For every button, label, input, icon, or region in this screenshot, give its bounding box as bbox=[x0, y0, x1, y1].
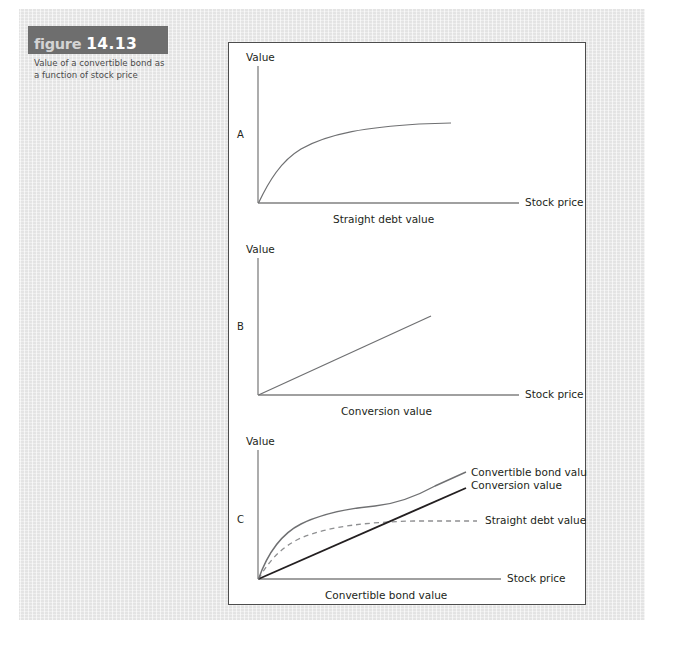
page-right-margin bbox=[645, 0, 676, 650]
panel-c-line-conversion-value bbox=[259, 488, 467, 579]
figure-caption: Value of a convertible bond as a functio… bbox=[28, 58, 166, 81]
figure-header: figure 14.13 Value of a convertible bond… bbox=[28, 26, 168, 81]
panel-c-legend-straight-debt-value: Straight debt value bbox=[485, 514, 586, 526]
panel-c-letter: C bbox=[237, 514, 244, 525]
panel-c-legend-conversion-value: Conversion value bbox=[471, 479, 562, 491]
subplot-a-svg: Value A Stock price Straight debt value bbox=[229, 43, 587, 231]
panel-b-letter: B bbox=[237, 321, 244, 332]
panel-a-caption: Straight debt value bbox=[333, 213, 434, 225]
panel-b-x-axis-label: Stock price bbox=[525, 388, 584, 400]
panel-a-letter: A bbox=[237, 129, 244, 140]
chart-panel: Value A Stock price Straight debt value … bbox=[228, 42, 586, 605]
page-top-margin bbox=[0, 0, 676, 9]
figure-number: 14.13 bbox=[86, 37, 137, 52]
panel-a-curve-straight-debt bbox=[259, 123, 452, 203]
page-left-margin bbox=[0, 0, 19, 650]
subplot-b-svg: Value B Stock price Conversion value bbox=[229, 235, 587, 423]
panel-c-legend-convertible-bond-value: Convertible bond value bbox=[471, 466, 587, 478]
panel-c-x-axis-label: Stock price bbox=[507, 572, 566, 584]
panel-c-curve-convertible-bond bbox=[259, 472, 467, 579]
panel-b-caption: Conversion value bbox=[341, 405, 432, 417]
panel-a-x-axis-label: Stock price bbox=[525, 196, 584, 208]
panel-b-line-conversion-value bbox=[259, 316, 432, 395]
subplot-c: Value C Convertible bond value Conversio… bbox=[229, 427, 587, 605]
panel-a-y-axis-label: Value bbox=[246, 51, 275, 63]
subplot-b: Value B Stock price Conversion value bbox=[229, 235, 587, 423]
figure-title-bar: figure 14.13 bbox=[28, 26, 168, 54]
panel-c-y-axis-label: Value bbox=[246, 435, 275, 447]
subplot-a: Value A Stock price Straight debt value bbox=[229, 43, 587, 231]
figure-label-word: figure bbox=[34, 37, 81, 52]
page-bottom-margin bbox=[0, 620, 676, 650]
panel-b-y-axis-label: Value bbox=[246, 243, 275, 255]
subplot-c-svg: Value C Convertible bond value Conversio… bbox=[229, 427, 587, 605]
panel-c-caption: Convertible bond value bbox=[325, 589, 447, 601]
